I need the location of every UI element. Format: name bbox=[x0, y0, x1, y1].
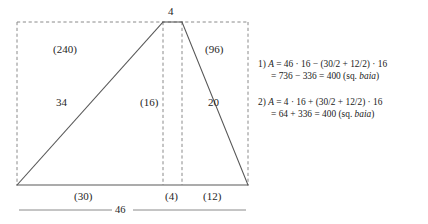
equation-1-line-1: 1) A = 46 · 16 − (30/2 + 12/2) · 16 bbox=[258, 58, 387, 70]
label-apex-top: 4 bbox=[168, 6, 174, 17]
equation-block-1: 1) A = 46 · 16 − (30/2 + 12/2) · 16 = 73… bbox=[258, 58, 387, 83]
equation-1-unit: baia bbox=[359, 71, 376, 81]
equation-1-paren-close: ) bbox=[376, 71, 379, 81]
equation-2-line-1: 2) A = 4 · 16 + (30/2 + 12/2) · 16 bbox=[258, 96, 382, 108]
equation-1-line-2: = 736 − 336 = 400 (sq. baia) bbox=[258, 70, 387, 82]
equation-2-index: 2) bbox=[258, 97, 266, 107]
equation-1-index: 1) bbox=[258, 59, 266, 69]
label-base-total: 46 bbox=[115, 205, 126, 216]
label-base-mid: (4) bbox=[165, 191, 178, 202]
label-area-left: (240) bbox=[53, 44, 77, 55]
equation-2-line-2: = 64 + 336 = 400 (sq. baia) bbox=[258, 108, 382, 120]
label-height-mid: (16) bbox=[140, 97, 158, 108]
label-area-right: (96) bbox=[205, 44, 223, 55]
apex-drop-lines-dashed bbox=[163, 22, 182, 185]
equation-2-result: = 64 + 336 = 400 (sq. bbox=[271, 109, 355, 119]
equation-2-expression: = 4 · 16 + (30/2 + 12/2) · 16 bbox=[274, 97, 383, 107]
equation-2-unit: baia bbox=[355, 109, 372, 119]
label-side-left: 34 bbox=[56, 97, 67, 108]
label-side-right: 20 bbox=[208, 97, 219, 108]
equation-1-expression: = 46 · 16 − (30/2 + 12/2) · 16 bbox=[274, 59, 387, 69]
label-base-right: (12) bbox=[203, 191, 221, 202]
equation-block-2: 2) A = 4 · 16 + (30/2 + 12/2) · 16 = 64 … bbox=[258, 96, 382, 121]
equation-2-paren-close: ) bbox=[371, 109, 374, 119]
label-base-left: (30) bbox=[74, 191, 92, 202]
equation-1-result: = 736 − 336 = 400 (sq. bbox=[271, 71, 359, 81]
